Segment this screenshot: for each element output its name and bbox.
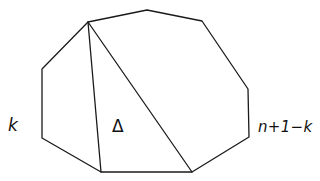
diagonal-right bbox=[88, 22, 192, 172]
label-n-plus-1-minus-k: n+1−k bbox=[258, 120, 312, 135]
label-triangle-delta: Δ bbox=[112, 118, 124, 135]
label-k: k bbox=[8, 117, 18, 134]
diagonal-left bbox=[88, 22, 101, 172]
polygon-diagram bbox=[0, 0, 320, 181]
convex-polygon bbox=[42, 10, 249, 172]
